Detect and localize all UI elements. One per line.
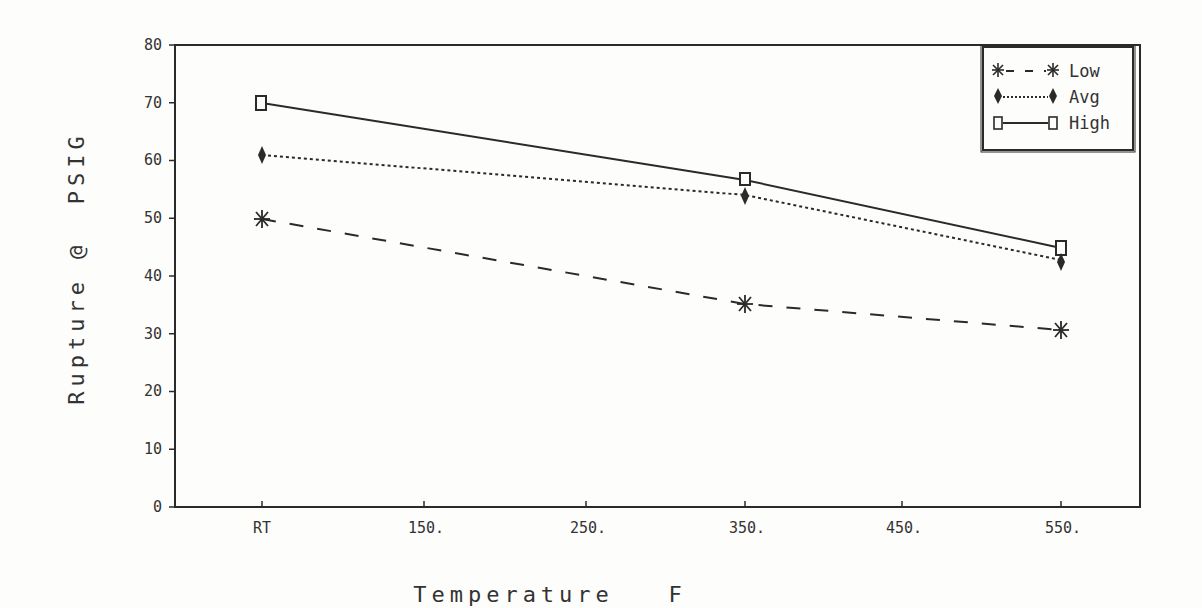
y-tick-label: 10 <box>144 440 162 458</box>
x-tick-label: 350. <box>729 519 765 537</box>
legend-label: Low <box>1069 61 1100 81</box>
y-tick-label: 80 <box>144 36 162 54</box>
asterisk-marker-icon <box>254 210 270 228</box>
series-high <box>256 96 1066 255</box>
y-tick-label: 70 <box>144 94 162 112</box>
line-chart: 0 10 20 30 40 50 60 70 80 RT 150. 250. 3… <box>0 0 1202 608</box>
y-tick-label: 30 <box>144 325 162 343</box>
y-tick-labels: 0 10 20 30 40 50 60 70 80 <box>144 36 162 516</box>
x-axis-title: Temperature F <box>413 582 687 607</box>
series-low <box>254 210 1069 339</box>
legend-label: Avg <box>1069 87 1100 107</box>
x-tick-label: 150. <box>408 519 444 537</box>
diamond-marker-icon <box>258 146 266 164</box>
x-tick-label: 250. <box>570 519 606 537</box>
x-tick-labels: RT 150. 250. 350. 450. 550. <box>253 519 1081 537</box>
y-tick-label: 60 <box>144 151 162 169</box>
y-tick-label: 40 <box>144 267 162 285</box>
square-icon <box>1049 117 1057 129</box>
asterisk-icon <box>992 63 1004 77</box>
diamond-marker-icon <box>741 187 749 205</box>
series-avg <box>258 146 1065 271</box>
asterisk-marker-icon <box>1053 321 1069 339</box>
square-marker-icon <box>740 173 750 185</box>
square-icon <box>994 117 1002 129</box>
y-axis-title: Rupture @ PSIG <box>64 131 89 405</box>
y-tick-label: 0 <box>153 498 162 516</box>
x-tick-label: 450. <box>886 519 922 537</box>
legend: Low Avg High <box>981 45 1135 152</box>
y-tick-label: 20 <box>144 382 162 400</box>
x-tick-label: RT <box>253 519 271 537</box>
legend-label: High <box>1069 113 1110 133</box>
asterisk-marker-icon <box>737 295 753 313</box>
y-tick-label: 50 <box>144 209 162 227</box>
square-marker-icon <box>1056 241 1066 255</box>
square-marker-icon <box>256 96 266 110</box>
x-tick-label: 550. <box>1045 519 1081 537</box>
asterisk-icon <box>1047 63 1059 77</box>
